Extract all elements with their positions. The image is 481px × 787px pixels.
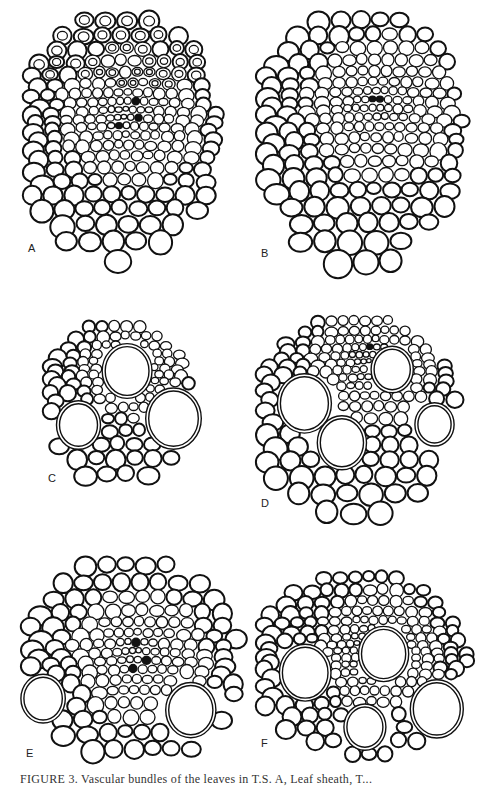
cell-diagram (255, 10, 465, 265)
figure-panel-c: C (42, 320, 192, 490)
figure-caption: FIGURE 3. Vascular bundles of the leaves… (20, 772, 480, 787)
figure-panel-e: E (20, 555, 240, 765)
panel-label-b: B (261, 247, 268, 259)
cell-diagram (42, 320, 192, 490)
cell-diagram (255, 570, 465, 755)
figure-panel-f: F (255, 570, 465, 755)
panel-label-a: A (28, 242, 35, 254)
cell-diagram (22, 10, 217, 260)
panel-label-f: F (261, 737, 268, 749)
cell-diagram (20, 555, 240, 765)
figure-panel-a: A (22, 10, 217, 260)
panel-label-c: C (48, 472, 56, 484)
panel-label-e: E (26, 747, 33, 759)
figure-panel-d: D (255, 315, 455, 515)
figure-panel-b: B (255, 10, 465, 265)
panel-label-d: D (261, 497, 269, 509)
cell-diagram (255, 315, 455, 515)
